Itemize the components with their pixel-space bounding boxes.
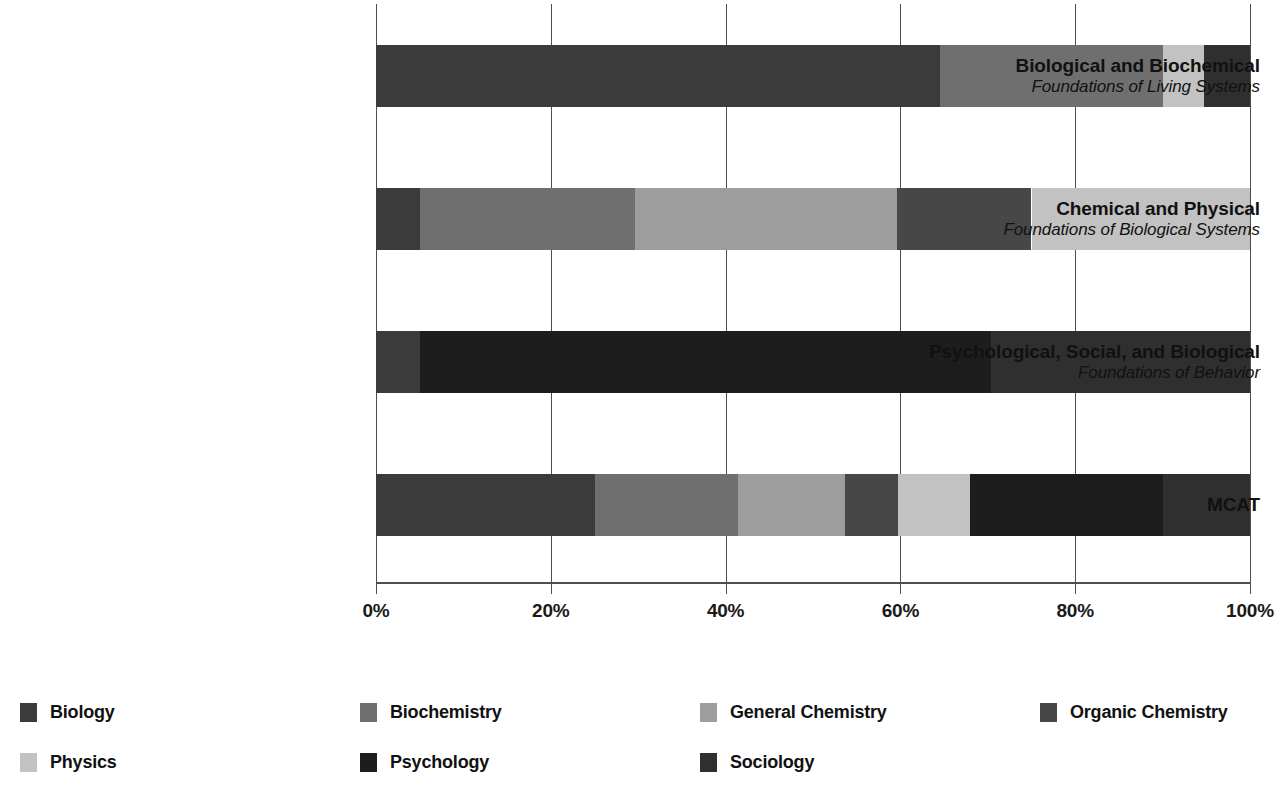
category-label-secondary: Foundations of Living Systems [900, 77, 1260, 98]
bar-segment-general-chemistry[interactable] [738, 474, 846, 536]
category-label-secondary: Foundations of Behavior [900, 363, 1260, 384]
legend-label: Physics [50, 752, 117, 773]
legend-label: Sociology [730, 752, 814, 773]
axis-tick [551, 582, 552, 594]
category-label: Psychological, Social, and BiologicalFou… [900, 340, 1276, 384]
category-label-primary: Psychological, Social, and Biological [900, 340, 1260, 363]
x-tick-label: 0% [331, 600, 421, 622]
legend-item-biology[interactable]: Biology [20, 702, 115, 723]
legend-swatch-icon [20, 753, 37, 772]
category-label-secondary: Foundations of Biological Systems [900, 220, 1260, 241]
x-tick-label: 20% [506, 600, 596, 622]
x-tick-label: 100% [1205, 600, 1276, 622]
legend-label: General Chemistry [730, 702, 887, 723]
legend-swatch-icon [360, 753, 377, 772]
legend-swatch-icon [1040, 703, 1057, 722]
chart-legend: BiologyBiochemistryGeneral ChemistryOrga… [0, 690, 1276, 788]
bar-segment-biology[interactable] [376, 188, 420, 250]
bar-segment-biochemistry[interactable] [420, 188, 635, 250]
legend-label: Organic Chemistry [1070, 702, 1228, 723]
legend-item-psychology[interactable]: Psychology [360, 752, 489, 773]
legend-label: Biology [50, 702, 115, 723]
legend-item-biochemistry[interactable]: Biochemistry [360, 702, 502, 723]
axis-tick [376, 582, 377, 594]
bar-segment-organic-chemistry[interactable] [845, 474, 897, 536]
category-label: Chemical and PhysicalFoundations of Biol… [900, 197, 1276, 241]
axis-tick [1075, 582, 1076, 594]
x-tick-label: 80% [1030, 600, 1120, 622]
x-tick-label: 40% [681, 600, 771, 622]
legend-item-physics[interactable]: Physics [20, 752, 117, 773]
legend-swatch-icon [700, 753, 717, 772]
axis-tick [900, 582, 901, 594]
legend-label: Psychology [390, 752, 489, 773]
x-tick-label: 60% [855, 600, 945, 622]
bar-segment-biochemistry[interactable] [595, 474, 738, 536]
legend-swatch-icon [360, 703, 377, 722]
legend-item-sociology[interactable]: Sociology [700, 752, 814, 773]
legend-label: Biochemistry [390, 702, 502, 723]
bar-segment-biology[interactable] [376, 331, 420, 393]
category-label-primary: Biological and Biochemical [900, 54, 1260, 77]
category-label: Biological and BiochemicalFoundations of… [900, 54, 1276, 98]
category-label-primary: Chemical and Physical [900, 197, 1260, 220]
bar-segment-biology[interactable] [376, 45, 940, 107]
bar-segment-general-chemistry[interactable] [635, 188, 897, 250]
legend-item-general-chemistry[interactable]: General Chemistry [700, 702, 887, 723]
axis-tick [1250, 582, 1251, 594]
bar-segment-biology[interactable] [376, 474, 595, 536]
x-axis-line [376, 582, 1251, 584]
legend-swatch-icon [20, 703, 37, 722]
stacked-bar-chart: 0%20%40%60%80%100% Biological and Bioche… [0, 0, 1276, 660]
category-label: MCAT [900, 493, 1276, 516]
category-label-primary: MCAT [900, 493, 1260, 516]
legend-item-organic-chemistry[interactable]: Organic Chemistry [1040, 702, 1228, 723]
axis-tick [726, 582, 727, 594]
legend-swatch-icon [700, 703, 717, 722]
